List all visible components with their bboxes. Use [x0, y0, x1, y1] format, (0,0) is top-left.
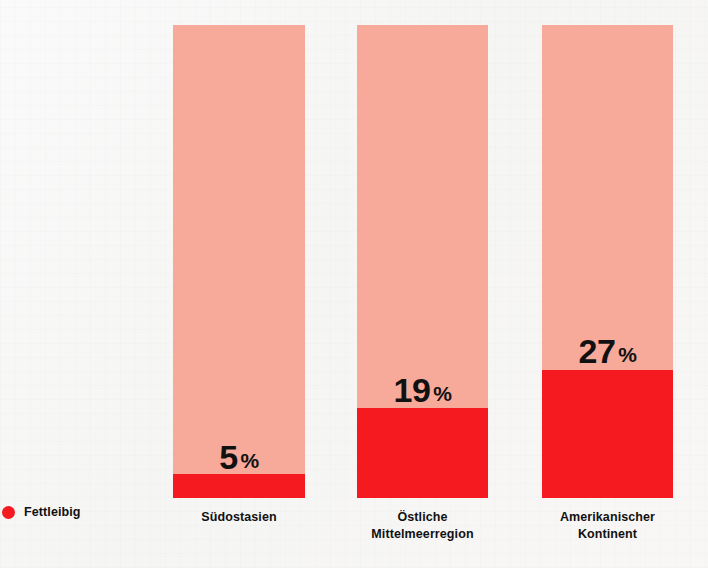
bar-fill-1 [173, 474, 305, 498]
category-label-3-line-2: Kontinent [535, 526, 680, 543]
bar-value-label-2: 19% [357, 373, 488, 407]
bar-value-label-1: 5% [173, 440, 305, 474]
category-label-2-line-2: Mittelmeerregion [350, 526, 495, 543]
category-label-3: Amerikanischer Kontinent [535, 509, 680, 543]
category-label-1-line-1: Südostasien [173, 509, 305, 526]
plot-area: 5% Südostasien 19% Östliche Mittelmeerre… [0, 0, 708, 568]
bar-value-unit-1: % [241, 449, 259, 472]
bar-remainder-1 [173, 25, 305, 498]
bar-value-number-1: 5 [219, 438, 237, 476]
category-label-3-line-1: Amerikanischer [535, 509, 680, 526]
chart-legend: Fettleibig [2, 505, 81, 519]
bar-group-3[interactable] [542, 25, 673, 498]
category-label-2: Östliche Mittelmeerregion [350, 509, 495, 543]
legend-dot-icon [2, 506, 15, 519]
bar-group-1[interactable] [173, 25, 305, 498]
category-label-2-line-1: Östliche [350, 509, 495, 526]
bar-value-label-3: 27% [542, 334, 673, 368]
bar-value-number-2: 19 [393, 371, 430, 409]
bar-fill-3 [542, 370, 673, 498]
bar-fill-2 [357, 408, 488, 498]
bar-value-unit-3: % [618, 343, 636, 366]
bar-value-unit-2: % [433, 382, 451, 405]
obesity-bar-chart: 5% Südostasien 19% Östliche Mittelmeerre… [0, 0, 708, 568]
category-label-1: Südostasien [173, 509, 305, 526]
bar-group-2[interactable] [357, 25, 488, 498]
bar-value-number-3: 27 [578, 332, 615, 370]
legend-item-label: Fettleibig [24, 505, 81, 519]
